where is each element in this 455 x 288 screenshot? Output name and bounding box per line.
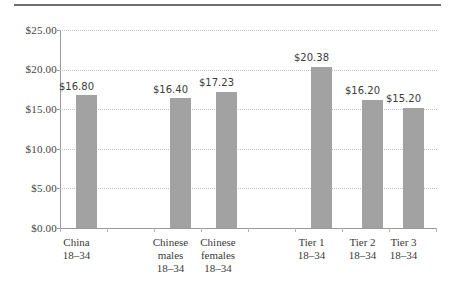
bar-value-label-china-18-34: $16.80 xyxy=(46,81,107,92)
bar-china-18-34[interactable] xyxy=(76,95,97,228)
x-axis-label-chinese-females-18-34: Chinese females 18–34 xyxy=(186,236,250,275)
y-tick-label-25: $25.00 xyxy=(3,25,57,36)
x-axis-label-china-18-34: China 18–34 xyxy=(46,236,107,262)
x-axis-label-line-2: 18–34 xyxy=(373,249,434,262)
bar-tier-2-18-34[interactable] xyxy=(362,100,383,228)
bar-tier-3-18-34[interactable] xyxy=(403,108,424,228)
y-tick-label-10: $10.00 xyxy=(3,144,57,155)
x-axis-label-line-1: Chinese xyxy=(153,236,188,248)
x-tick-mark-0 xyxy=(60,228,61,232)
x-axis-label-line-1: Tier 1 xyxy=(298,236,324,248)
x-tick-mark-1 xyxy=(107,228,108,232)
x-axis-label-tier-3-18-34: Tier 3 18–34 xyxy=(373,236,434,262)
bar-value-label-chinese-females-18-34: $17.23 xyxy=(186,77,247,88)
y-tick-label-15: $15.00 xyxy=(3,104,57,115)
x-axis-label-line-2: females xyxy=(186,249,250,262)
x-axis-label-line-1: Tier 2 xyxy=(349,236,375,248)
bar-value-label-tier-1-18-34: $20.38 xyxy=(281,52,342,63)
x-axis-label-line-2: 18–34 xyxy=(46,249,107,262)
x-tick-mark-4 xyxy=(248,228,249,232)
x-tick-mark-6 xyxy=(342,228,343,232)
plot-area xyxy=(60,30,437,228)
x-axis-label-line-3: 18–34 xyxy=(186,262,250,275)
x-axis-label-line-1: Chinese xyxy=(200,236,235,248)
x-tick-mark-2 xyxy=(154,228,155,232)
x-tick-mark-3 xyxy=(201,228,202,232)
x-axis-label-line-1: China xyxy=(63,236,89,248)
bar-tier-1-18-34[interactable] xyxy=(311,67,332,228)
y-tick-label-5: $5.00 xyxy=(3,183,57,194)
gridline-20 xyxy=(60,70,437,72)
bar-chinese-females-18-34[interactable] xyxy=(216,92,237,228)
bar-value-label-tier-3-18-34: $15.20 xyxy=(373,93,434,104)
x-axis-label-line-1: Tier 3 xyxy=(390,236,416,248)
y-tick-label-0: $0.00 xyxy=(3,223,57,234)
x-tick-mark-5 xyxy=(295,228,296,232)
x-tick-mark-8 xyxy=(436,228,437,232)
y-tick-label-20: $20.00 xyxy=(3,64,57,75)
x-tick-mark-7 xyxy=(389,228,390,232)
gridline-25 xyxy=(60,30,437,32)
bar-chinese-males-18-34[interactable] xyxy=(170,98,191,228)
bar-chart: $25.00 $20.00 $15.00 $10.00 $5.00 $0.00 … xyxy=(0,0,455,288)
